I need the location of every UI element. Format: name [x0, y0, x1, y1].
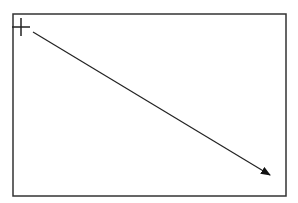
diagram-canvas — [0, 0, 298, 203]
diagram-svg — [0, 0, 298, 203]
arrow-line — [33, 32, 270, 175]
crosshair-icon — [12, 18, 30, 36]
frame-border — [13, 14, 286, 196]
